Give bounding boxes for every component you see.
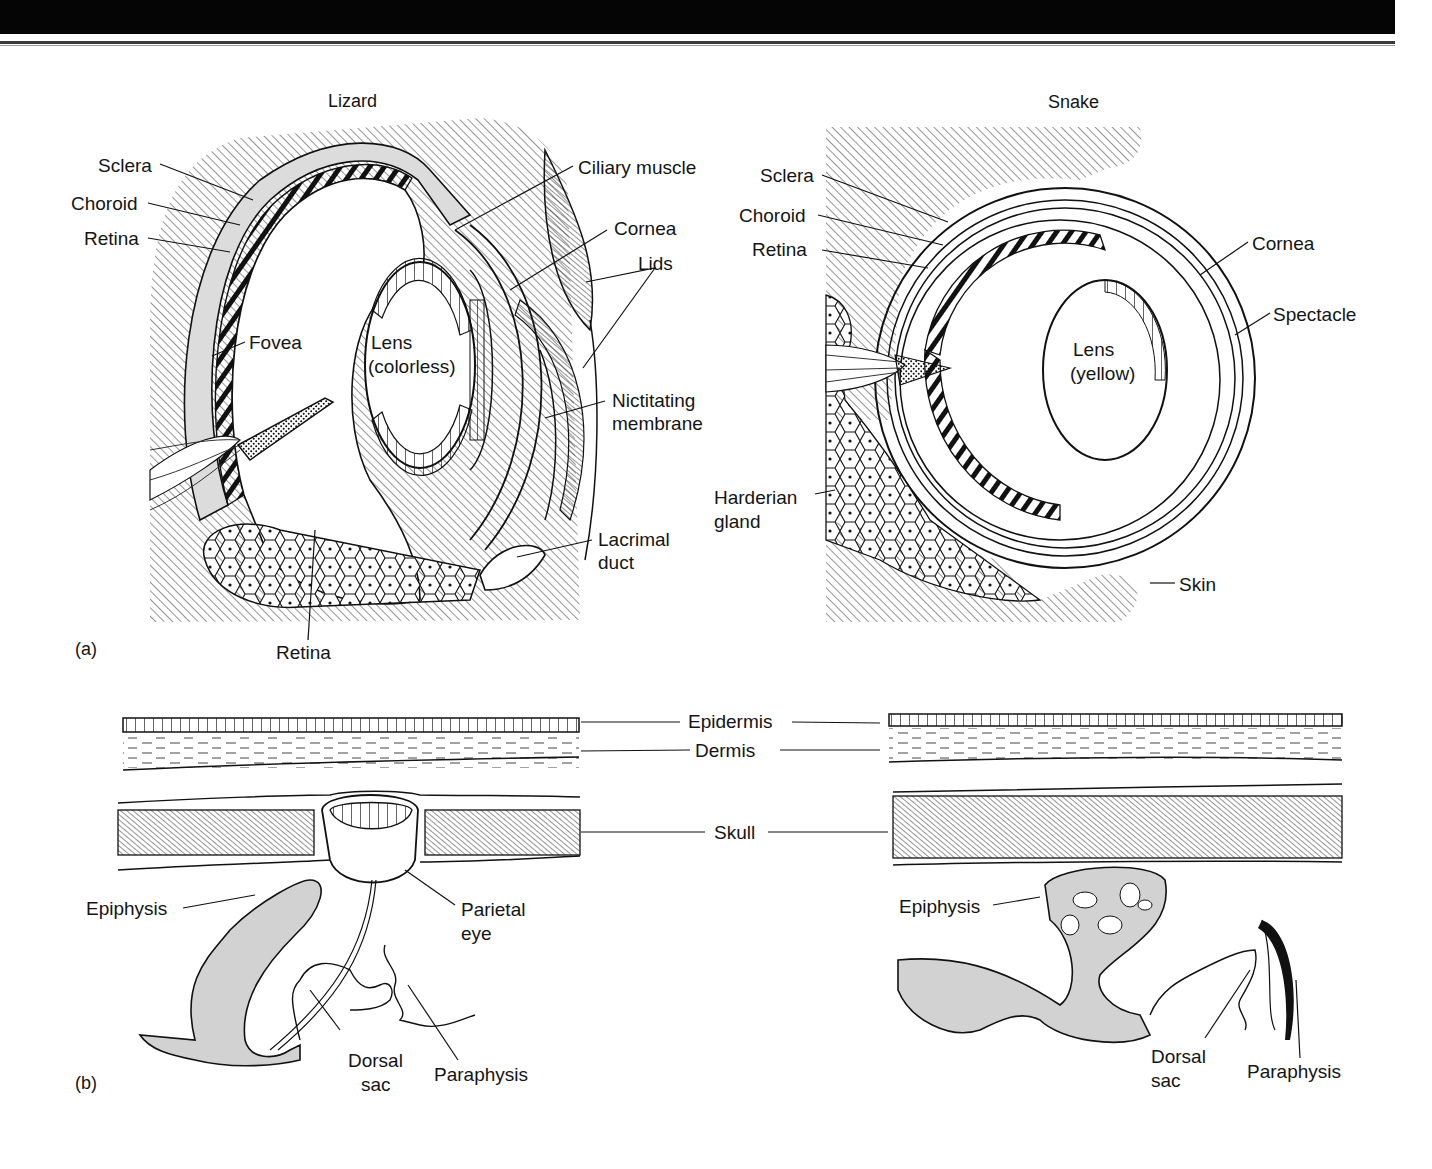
- label-snake-dorsal-sac-2: sac: [1151, 1069, 1181, 1092]
- label-snake-lens-2: (yellow): [1070, 362, 1135, 385]
- label-snake-sclera: Sclera: [760, 164, 814, 187]
- label-lizard-nictitating-2: membrane: [612, 412, 703, 435]
- label-snake-epiphysis: Epiphysis: [899, 895, 980, 918]
- label-snake-harderian-2: gland: [714, 510, 761, 533]
- anatomy-illustration: [0, 0, 1432, 1169]
- label-skull: Skull: [714, 821, 755, 844]
- label-snake-choroid: Choroid: [739, 204, 806, 227]
- label-lizard-lacrimal-1: Lacrimal: [598, 528, 670, 551]
- label-snake-cornea: Cornea: [1252, 232, 1314, 255]
- label-lizard-lens-2: (colorless): [368, 355, 456, 378]
- label-parietal-eye-1: Parietal: [461, 898, 525, 921]
- label-snake-skin: Skin: [1179, 573, 1216, 596]
- label-epidermis: Epidermis: [688, 710, 772, 733]
- label-lizard-retina-bottom: Retina: [276, 641, 331, 664]
- label-parietal-eye-2: eye: [461, 922, 492, 945]
- label-snake-lens-1: Lens: [1073, 338, 1114, 361]
- label-snake-harderian-1: Harderian: [714, 486, 797, 509]
- lizard-eye-diagram: [148, 118, 655, 640]
- label-lizard-ciliary-muscle: Ciliary muscle: [578, 156, 696, 179]
- label-lizard-cornea: Cornea: [614, 217, 676, 240]
- panel-label-b: (b): [75, 1072, 97, 1095]
- label-lizard-fovea: Fovea: [249, 331, 302, 354]
- label-lizard-choroid: Choroid: [71, 192, 138, 215]
- label-lizard-lids: Lids: [638, 252, 673, 275]
- label-snake-spectacle: Spectacle: [1273, 303, 1356, 326]
- label-snake-dorsal-sac-1: Dorsal: [1151, 1045, 1206, 1068]
- label-lizard-dorsal-sac-1: Dorsal: [348, 1049, 403, 1072]
- label-snake-paraphysis: Paraphysis: [1247, 1060, 1341, 1083]
- lizard-title: Lizard: [328, 90, 377, 113]
- label-lizard-nictitating-1: Nictitating: [612, 389, 695, 412]
- label-lizard-lacrimal-2: duct: [598, 551, 634, 574]
- parietal-eye-diagram: [118, 714, 1342, 1066]
- label-lizard-paraphysis: Paraphysis: [434, 1063, 528, 1086]
- label-lizard-dorsal-sac-2: sac: [361, 1073, 391, 1096]
- label-dermis: Dermis: [695, 739, 755, 762]
- label-lizard-retina: Retina: [84, 227, 139, 250]
- label-lizard-sclera: Sclera: [98, 154, 152, 177]
- label-lizard-lens-1: Lens: [371, 331, 412, 354]
- label-snake-retina: Retina: [752, 238, 807, 261]
- snake-eye-diagram: [815, 127, 1270, 622]
- label-lizard-epiphysis: Epiphysis: [86, 897, 167, 920]
- panel-label-a: (a): [75, 638, 97, 661]
- snake-title: Snake: [1048, 91, 1099, 114]
